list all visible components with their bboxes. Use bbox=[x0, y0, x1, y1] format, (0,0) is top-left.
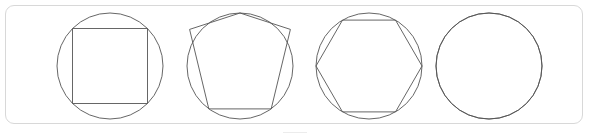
inscribed-polygon-32-sides bbox=[436, 13, 542, 119]
baseline-artifact bbox=[283, 132, 307, 133]
circumscribed-circle-2 bbox=[187, 13, 293, 119]
inscribed-polygon-5-sides bbox=[190, 13, 291, 109]
inscribed-polygon-4-sides bbox=[73, 29, 148, 104]
shape-panel-3 bbox=[316, 13, 422, 119]
shape-panels-group bbox=[57, 13, 542, 119]
shape-panel-1 bbox=[57, 13, 163, 119]
figure-stage bbox=[0, 0, 589, 139]
inscribed-polygons-svg bbox=[0, 0, 589, 139]
shape-panel-2 bbox=[187, 13, 293, 119]
circumscribed-circle-3 bbox=[316, 13, 422, 119]
circumscribed-circle-4 bbox=[436, 13, 542, 119]
shape-panel-4 bbox=[436, 13, 542, 119]
inscribed-polygon-6-sides bbox=[316, 20, 422, 112]
